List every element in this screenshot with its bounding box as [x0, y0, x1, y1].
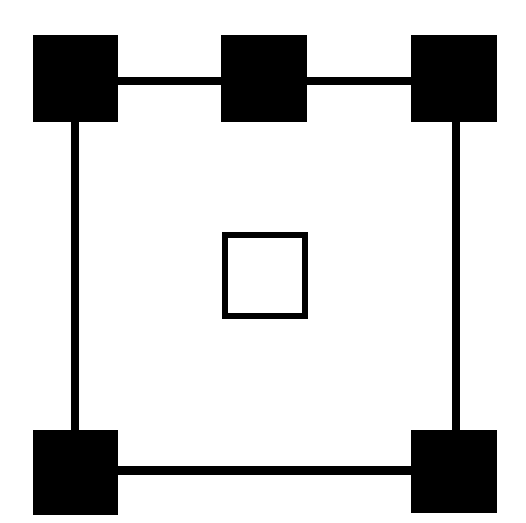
center-hollow-square	[222, 232, 308, 319]
node-square-bottom-right	[411, 430, 497, 513]
edge-top-right-to-bottom-right	[452, 119, 460, 433]
edge-top-left-to-top-middle	[114, 77, 224, 85]
edge-top-left-to-bottom-left	[71, 119, 79, 433]
node-square-top-right	[411, 35, 497, 122]
edge-bottom-left-to-bottom-right	[114, 466, 414, 475]
figure-canvas	[0, 0, 526, 523]
node-square-bottom-left	[33, 430, 118, 515]
edge-top-middle-to-top-right	[303, 77, 414, 85]
node-square-top-left	[33, 35, 118, 122]
node-square-top-middle	[221, 35, 307, 122]
